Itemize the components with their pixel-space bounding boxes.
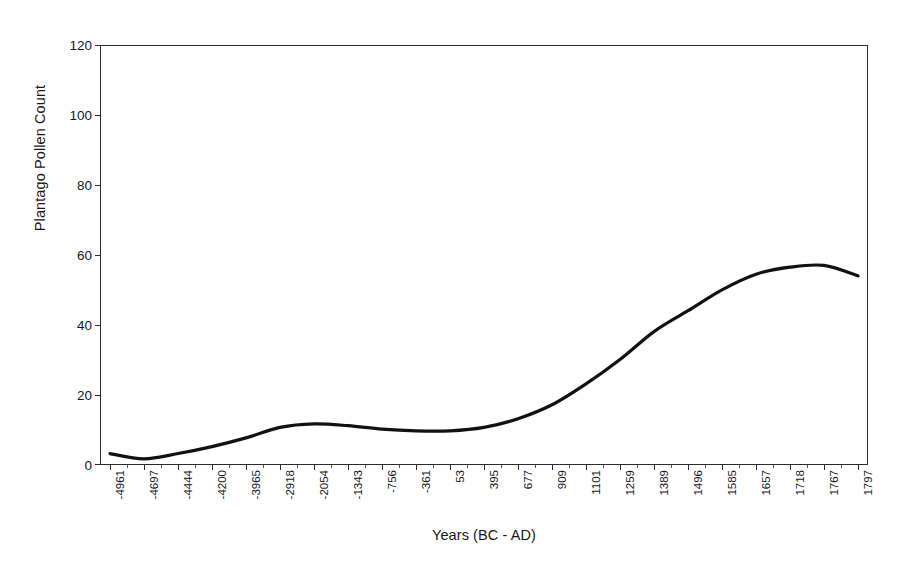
x-axis-minor-tick <box>433 465 434 468</box>
x-axis-minor-tick <box>807 465 808 468</box>
x-axis-minor-tick <box>399 465 400 468</box>
x-axis-tick-labels: -4961-4697-4444-4200-3965-2918-2054-1343… <box>100 470 868 526</box>
x-axis-tick-label: -361 <box>420 470 432 493</box>
x-axis-tick-label: 909 <box>556 470 568 489</box>
x-axis-tick-label: -4697 <box>148 470 160 499</box>
x-axis-tick-label: -2918 <box>284 470 296 499</box>
y-axis-tick-label: 80 <box>56 178 92 193</box>
x-axis-tick-label: 1496 <box>692 470 704 496</box>
x-axis-tick-label: 1101 <box>590 470 602 495</box>
y-axis-tick-label: 40 <box>56 318 92 333</box>
y-axis-tick-label: 60 <box>56 248 92 263</box>
x-axis-minor-tick <box>127 465 128 468</box>
series-line-plantago-pollen-count <box>101 46 867 464</box>
y-axis-tick-label: 100 <box>56 108 92 123</box>
y-axis-tick-label: 120 <box>56 38 92 53</box>
x-axis-tick-label: -4444 <box>182 470 194 499</box>
x-axis-tick-label: 677 <box>522 470 534 489</box>
x-axis-minor-tick <box>705 465 706 468</box>
x-axis-tick-label: 395 <box>488 470 500 489</box>
x-axis-tick-label: -4200 <box>216 470 228 499</box>
x-axis-minor-tick <box>297 465 298 468</box>
x-axis-tick-label: 1767 <box>828 470 840 496</box>
x-axis-minor-tick <box>467 465 468 468</box>
x-axis-minor-tick <box>603 465 604 468</box>
x-axis-title: Years (BC - AD) <box>100 527 868 543</box>
x-axis-minor-tick <box>671 465 672 468</box>
x-axis-minor-tick <box>331 465 332 468</box>
x-axis-minor-tick <box>161 465 162 468</box>
x-axis-tick-label: -1343 <box>352 470 364 499</box>
x-axis-tick-label: 1259 <box>624 470 636 496</box>
x-axis-tick-label: 1657 <box>760 470 772 496</box>
y-axis-tick-label: 20 <box>56 388 92 403</box>
x-axis-tick-label: 1585 <box>726 470 738 496</box>
x-axis-tick-label: 53 <box>454 470 466 483</box>
x-axis-tick-label: -3965 <box>250 470 262 499</box>
plot-area <box>100 45 868 465</box>
x-axis-minor-tick <box>773 465 774 468</box>
x-axis-minor-tick <box>569 465 570 468</box>
x-axis-minor-tick <box>263 465 264 468</box>
x-axis-tick-label: -4961 <box>114 470 126 499</box>
x-axis-minor-tick <box>535 465 536 468</box>
x-axis-minor-tick <box>229 465 230 468</box>
x-axis-minor-tick <box>841 465 842 468</box>
x-axis-minor-tick <box>501 465 502 468</box>
x-axis-tick-label: 1718 <box>794 470 806 496</box>
y-axis-title: Plantago Pollen Count <box>32 8 48 308</box>
x-axis-tick-label: 1797 <box>862 470 874 496</box>
x-axis-minor-tick <box>365 465 366 468</box>
x-axis-minor-tick <box>195 465 196 468</box>
x-axis-tick-label: 1389 <box>658 470 670 496</box>
x-axis-tick-label: -2054 <box>318 470 330 499</box>
x-axis-minor-tick <box>637 465 638 468</box>
x-axis-minor-tick <box>739 465 740 468</box>
y-axis-tick-label: 0 <box>56 458 92 473</box>
chart-figure: Plantago Pollen Count 120100806040200 -4… <box>0 0 900 568</box>
y-axis-tick-labels: 120100806040200 <box>52 45 92 465</box>
x-axis-tick-label: -756 <box>386 470 398 493</box>
